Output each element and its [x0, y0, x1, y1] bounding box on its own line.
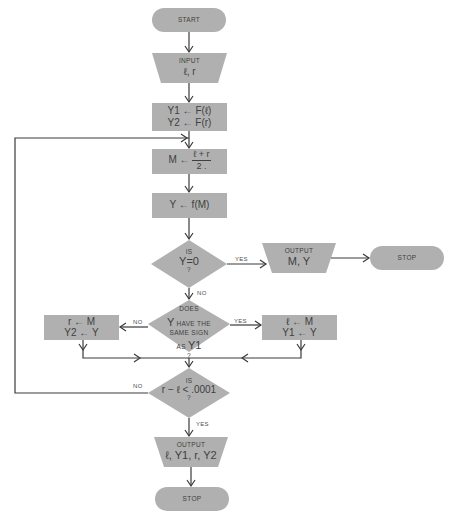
midpoint-lhs: M ← [168, 154, 189, 165]
is-zero-bottom: ? [151, 267, 227, 274]
edge-label-samesign-yes: YES [234, 318, 247, 324]
same-sign-as: AS [177, 343, 188, 350]
update-left-line-1: ℓ ← M [262, 317, 337, 328]
same-sign-line-3: SAME SIGN [148, 330, 230, 337]
init-line-2: Y2 ← F(r) [152, 118, 227, 129]
same-sign-bottom: ? [148, 353, 230, 360]
input-value: ℓ, r [152, 67, 227, 78]
output-final-value: ℓ, Y1, r, Y2 [154, 450, 228, 462]
init-label: Y1 ← F(ℓ) Y2 ← F(r) [152, 106, 227, 128]
midpoint-label: M ← ℓ + r 2 . [152, 150, 227, 171]
converged-label: IS r − ℓ < .0001 ? [148, 378, 230, 402]
edge-label-converged-no: NO [133, 383, 143, 389]
converged-bottom: ? [148, 395, 230, 402]
output-final-label: OUTPUT ℓ, Y1, r, Y2 [154, 442, 228, 461]
stop-root-label: STOP [370, 255, 444, 262]
output-final-title: OUTPUT [154, 442, 228, 449]
edge-label-converged-yes: YES [196, 421, 209, 427]
same-sign-line-1: DOES [148, 306, 230, 313]
output-root-title: OUTPUT [262, 248, 336, 255]
init-line-1: Y1 ← F(ℓ) [152, 106, 227, 117]
is-zero-label: IS Y=0 ? [151, 249, 227, 274]
update-left-line-2: Y1 ← Y [262, 328, 337, 339]
output-root-value: M, Y [262, 256, 336, 268]
output-root-label: OUTPUT M, Y [262, 248, 336, 267]
input-label: INPUT ℓ, r [152, 58, 227, 77]
midpoint-fraction: ℓ + r 2 . [192, 150, 210, 171]
update-left-label: ℓ ← M Y1 ← Y [262, 317, 337, 338]
update-right-line-1: r ← M [44, 317, 119, 328]
midpoint-numerator: ℓ + r [192, 150, 210, 161]
update-right-line-2: Y2 ← Y [44, 328, 119, 339]
edge-label-samesign-no: NO [133, 319, 143, 325]
same-sign-line-2: Y HAVE THE [148, 313, 230, 330]
stop-final-label: STOP [155, 496, 229, 503]
start-label: START [152, 17, 226, 24]
input-title: INPUT [152, 58, 227, 65]
update-right-label: r ← M Y2 ← Y [44, 317, 119, 338]
same-sign-label: DOES Y HAVE THE SAME SIGN AS Y1 ? [148, 306, 230, 360]
edge-label-iszero-yes: YES [235, 256, 248, 262]
same-sign-y1: Y1 [188, 339, 201, 351]
evaluate-label: Y ← f(M) [152, 200, 227, 211]
same-sign-have-the: HAVE THE [174, 320, 210, 327]
edge-label-iszero-no: NO [197, 290, 207, 296]
same-sign-line-4: AS Y1 [148, 336, 230, 353]
midpoint-denominator: 2 . [192, 161, 210, 171]
